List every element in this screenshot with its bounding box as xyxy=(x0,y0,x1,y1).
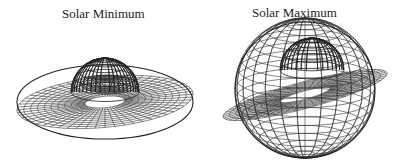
solar-minimum-surface xyxy=(17,58,193,139)
solar-maximum-surface xyxy=(223,18,387,158)
wireframe-figures xyxy=(0,0,402,165)
